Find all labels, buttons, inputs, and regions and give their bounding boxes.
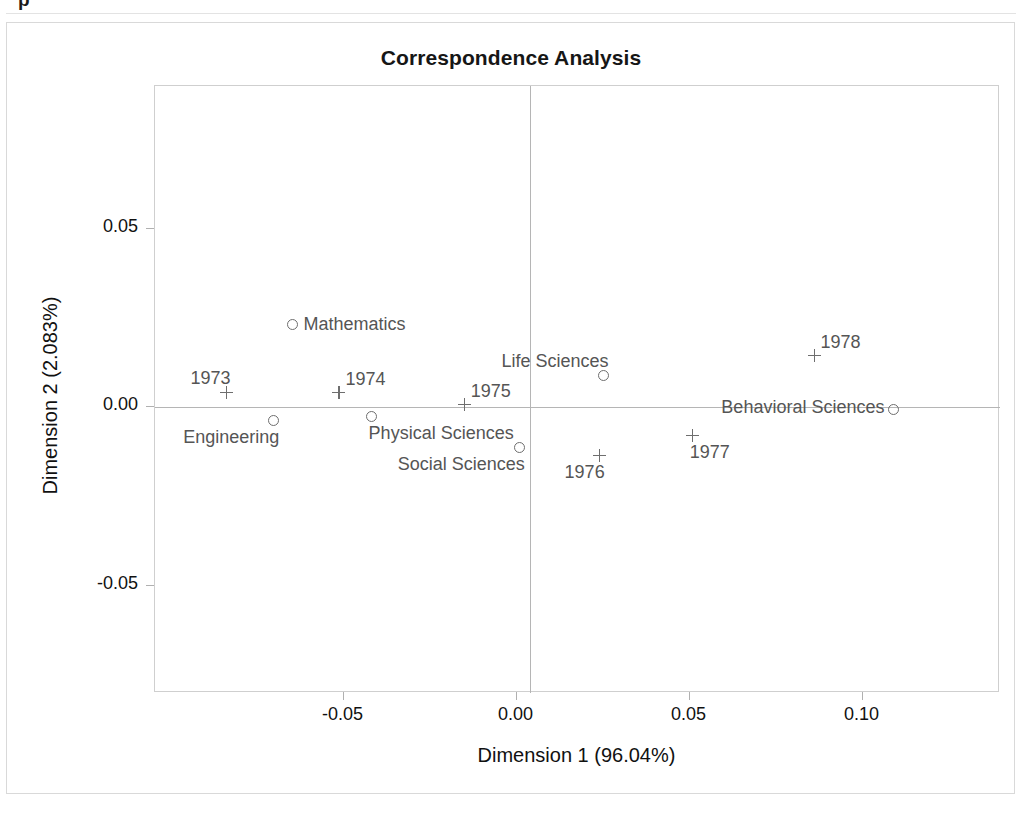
data-point-plus[interactable] — [808, 349, 821, 362]
y-axis-title: Dimension 2 (2.083%) — [39, 92, 62, 699]
data-point-label: 1976 — [565, 463, 605, 481]
y-axis-tick-label: 0.05 — [0, 216, 138, 237]
data-point-label: 1973 — [191, 369, 231, 387]
chart-title: Correspondence Analysis — [0, 46, 1022, 70]
data-point-label: Mathematics — [303, 315, 405, 333]
data-point-label: Behavioral Sciences — [721, 398, 884, 416]
data-point-label: 1974 — [345, 370, 385, 388]
data-point-label: Engineering — [183, 428, 279, 446]
data-point-circle[interactable] — [514, 442, 525, 453]
data-point-plus[interactable] — [458, 398, 471, 411]
x-axis-tick-label: 0.00 — [471, 704, 561, 725]
data-point-circle[interactable] — [287, 319, 298, 330]
x-axis-tick — [689, 692, 690, 700]
data-point-plus[interactable] — [593, 449, 606, 462]
data-point-circle[interactable] — [598, 370, 609, 381]
data-point-label: Social Sciences — [398, 455, 525, 473]
zero-line-vertical — [530, 86, 531, 693]
data-point-label: 1975 — [471, 382, 511, 400]
x-axis-tick — [862, 692, 863, 700]
x-axis-tick-label: 0.05 — [644, 704, 734, 725]
plot-panel: MathematicsEngineeringPhysical SciencesS… — [154, 85, 999, 692]
y-axis-tick-label: -0.05 — [0, 573, 138, 594]
page-top-artifact: p — [0, 0, 1022, 16]
data-point-label: 1977 — [690, 443, 730, 461]
data-point-plus[interactable] — [332, 386, 345, 399]
x-axis-tick-label: 0.10 — [817, 704, 907, 725]
x-axis-tick-label: -0.05 — [298, 704, 388, 725]
data-point-label: 1978 — [821, 333, 861, 351]
y-axis-tick — [146, 228, 154, 229]
data-point-circle[interactable] — [366, 411, 377, 422]
horizontal-divider — [6, 13, 1016, 14]
data-point-circle[interactable] — [888, 404, 899, 415]
data-point-circle[interactable] — [268, 415, 279, 426]
x-axis-tick — [516, 692, 517, 700]
y-axis-tick-label: 0.00 — [0, 394, 138, 415]
cropped-text-fragment: p — [18, 0, 30, 11]
x-axis-tick — [343, 692, 344, 700]
x-axis-title: Dimension 1 (96.04%) — [154, 744, 999, 767]
data-point-plus[interactable] — [686, 429, 699, 442]
y-axis-tick — [146, 406, 154, 407]
y-axis-tick — [146, 585, 154, 586]
data-point-label: Life Sciences — [501, 352, 608, 370]
data-point-label: Physical Sciences — [369, 424, 514, 442]
